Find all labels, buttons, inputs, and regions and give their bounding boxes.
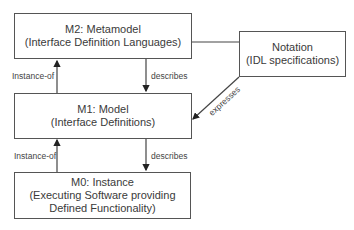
edge-label-describes-lower: describes xyxy=(151,151,187,161)
node-notation: Notation (IDL specifications) xyxy=(239,31,346,77)
node-m1-subtitle: (Interface Definitions) xyxy=(51,116,156,129)
node-m0-title: M0: Instance xyxy=(71,176,134,189)
node-m0-instance: M0: Instance (Executing Software providi… xyxy=(14,172,191,219)
node-m2-title: M2: Metamodel xyxy=(65,23,141,36)
edge-label-instance-of-lower: Instance-of xyxy=(14,151,56,161)
edge-label-instance-of-upper: Instance-of xyxy=(12,71,54,81)
node-notation-subtitle: (IDL specifications) xyxy=(246,54,339,67)
node-m0-subtitle: (Executing Software providing xyxy=(29,189,175,202)
node-m2-metamodel: M2: Metamodel (Interface Definition Lang… xyxy=(14,13,192,59)
node-m1-title: M1: Model xyxy=(77,103,128,116)
node-m1-model: M1: Model (Interface Definitions) xyxy=(14,93,192,139)
node-m2-subtitle: (Interface Definition Languages) xyxy=(25,36,182,49)
node-m0-subtitle-2: Defined Functionality) xyxy=(49,202,155,215)
node-notation-title: Notation xyxy=(272,41,313,54)
edge-label-describes-upper: describes xyxy=(151,71,187,81)
